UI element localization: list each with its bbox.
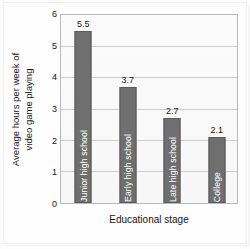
y-axis-title-line-1: Average hours per week of (11, 52, 24, 165)
y-tick-label: 2 (40, 136, 57, 146)
bar-category-wrap: Junior high school (76, 32, 91, 202)
bar-category-label: Junior high school (78, 125, 88, 202)
bar-category-wrap: Early high school (120, 88, 135, 202)
plot-area: 5.5 Junior high school 3.7 Early high sc… (60, 14, 238, 204)
bar-value-label: 2.7 (166, 106, 179, 116)
bar-group: 2.7 Late high school (150, 15, 195, 203)
bar-category-label: Early high school (123, 129, 133, 202)
bar[interactable]: Junior high school (75, 31, 92, 203)
bar[interactable]: Late high school (164, 118, 181, 203)
bar-category-label: College (212, 167, 222, 202)
y-tick-label: 5 (40, 41, 57, 51)
bar[interactable]: Early high school (119, 87, 136, 203)
bar-chart-figure: Average hours per week of video game pla… (0, 0, 250, 249)
y-tick-label: 6 (40, 9, 57, 19)
bar-value-label: 2.1 (210, 125, 223, 135)
bar-category-wrap: College (209, 138, 224, 202)
bar-group: 2.1 College (195, 15, 240, 203)
y-axis-title-line-2: video game playing (23, 52, 36, 165)
bar-value-label: 3.7 (121, 75, 134, 85)
x-axis-title: Educational stage (60, 214, 238, 225)
y-tick-label: 1 (40, 167, 57, 177)
bar-group: 3.7 Early high school (106, 15, 151, 203)
bar-value-label: 5.5 (77, 19, 90, 29)
y-axis-title: Average hours per week of video game pla… (8, 14, 38, 204)
bar[interactable]: College (208, 137, 225, 203)
bar-group: 5.5 Junior high school (61, 15, 106, 203)
bars-layer: 5.5 Junior high school 3.7 Early high sc… (61, 15, 237, 203)
bar-category-label: Late high school (167, 132, 177, 202)
y-tick-label: 4 (40, 72, 57, 82)
y-tick-label: 3 (40, 104, 57, 114)
y-axis-tick-labels: 6 5 4 3 2 1 0 (40, 14, 57, 204)
y-tick-label: 0 (40, 199, 57, 209)
bar-category-wrap: Late high school (165, 119, 180, 202)
